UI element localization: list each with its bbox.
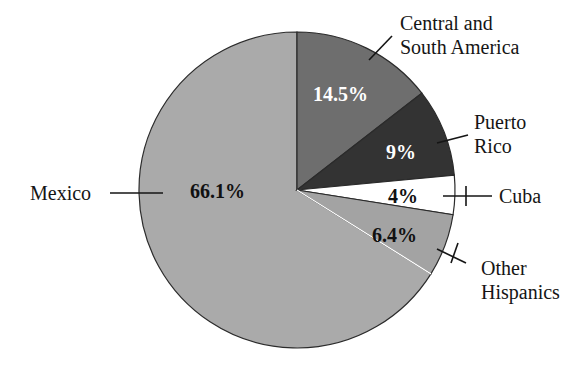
category-label-mexico: Mexico <box>30 182 91 204</box>
category-label-other-hispanics-line2: Hispanics <box>481 281 560 304</box>
category-label-puerto-rico-line2: Rico <box>474 135 512 157</box>
slice-value-puerto-rico: 9% <box>386 141 416 163</box>
category-label-central-and-south-america-line2: South America <box>400 36 520 58</box>
pie-chart-figure: 14.5% 9% 4% 6.4% 66.1% Central and South… <box>0 0 584 377</box>
slice-value-cuba: 4% <box>388 185 418 207</box>
category-label-cuba: Cuba <box>499 185 541 207</box>
slice-value-mexico: 66.1% <box>190 180 245 202</box>
category-label-other-hispanics-line1: Other <box>481 257 527 279</box>
slice-value-other-hispanics: 6.4% <box>372 224 417 246</box>
category-label-puerto-rico-line1: Puerto <box>474 111 526 133</box>
slice-value-central-and-south-america: 14.5% <box>313 83 368 105</box>
category-label-central-and-south-america-line1: Central and <box>400 12 493 34</box>
pie-chart-svg: 14.5% 9% 4% 6.4% 66.1% Central and South… <box>0 0 584 377</box>
